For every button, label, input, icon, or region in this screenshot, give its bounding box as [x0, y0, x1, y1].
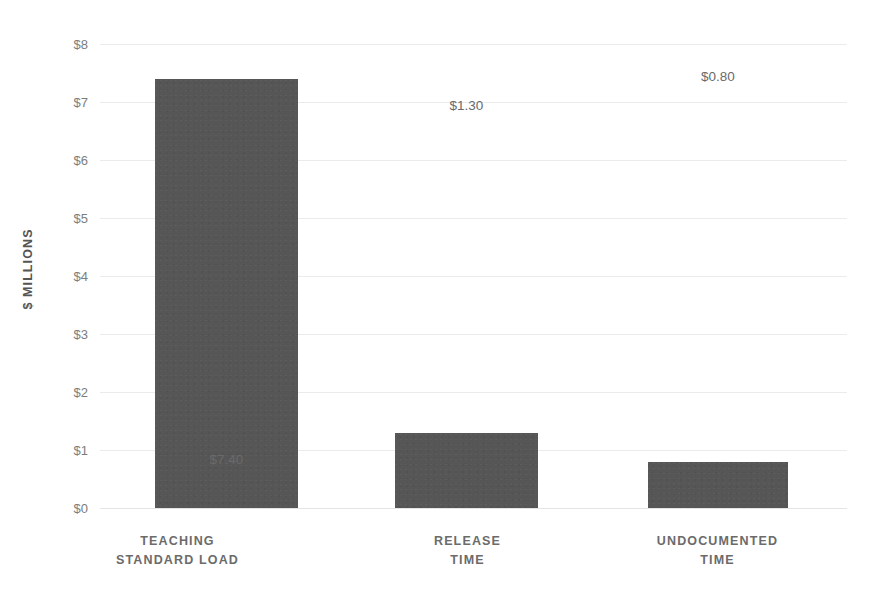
- y-tick-label: $0: [0, 501, 88, 516]
- y-tick-label: $6: [0, 153, 88, 168]
- bar-chart: $ MILLIONS $8 $7 $6 $5 $4 $3 $2 $1 $0 $7…: [0, 0, 886, 596]
- plot-area: $7.40 $1.30 $0.80: [100, 44, 847, 508]
- x-category-label-teaching-standard-load: TEACHING STANDARD LOAD: [55, 532, 300, 570]
- x-category-label-undocumented-time: UNDOCUMENTED TIME: [595, 532, 840, 570]
- gridline-baseline: [100, 508, 847, 509]
- x-category-label-release-time: RELEASE TIME: [345, 532, 590, 570]
- y-tick-label: $8: [0, 37, 88, 52]
- y-axis-tick-labels: $8 $7 $6 $5 $4 $3 $2 $1 $0: [0, 44, 88, 508]
- bar-undocumented-time[interactable]: [648, 462, 788, 508]
- y-tick-label: $7: [0, 95, 88, 110]
- gridline: [100, 44, 847, 45]
- bar-release-time[interactable]: [395, 433, 538, 508]
- y-tick-label: $1: [0, 443, 88, 458]
- bar-value-label: $0.80: [648, 69, 788, 84]
- bar-teaching-standard-load[interactable]: [155, 79, 298, 508]
- y-tick-label: $5: [0, 211, 88, 226]
- y-tick-label: $2: [0, 385, 88, 400]
- y-tick-label: $3: [0, 327, 88, 342]
- bar-value-label: $1.30: [395, 98, 538, 113]
- chart-title: [0, 0, 886, 1]
- bar-value-label: $7.40: [155, 452, 298, 467]
- y-tick-label: $4: [0, 269, 88, 284]
